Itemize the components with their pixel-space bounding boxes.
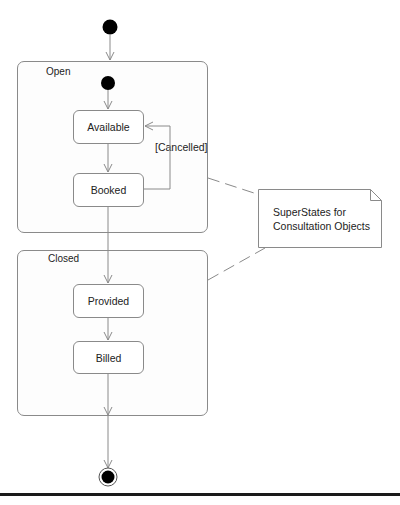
bottom-divider xyxy=(0,493,400,496)
state-booked: Booked xyxy=(73,173,144,207)
note-superstates: SuperStates for Consultation Objects xyxy=(258,189,382,248)
note-line-2: Consultation Objects xyxy=(273,219,370,233)
superstate-closed-label: Closed xyxy=(48,253,79,264)
note-connector-closed xyxy=(208,248,265,280)
final-state-inner-icon xyxy=(102,471,115,484)
state-provided-label: Provided xyxy=(88,295,129,307)
guard-cancelled-label: [Cancelled] xyxy=(155,141,208,153)
initial-state-icon xyxy=(103,20,118,35)
state-diagram: Open Closed Available Booked Provided Bi… xyxy=(0,0,400,505)
state-booked-label: Booked xyxy=(91,184,127,196)
superstate-open-label: Open xyxy=(46,66,70,77)
final-state-outer-icon xyxy=(99,468,117,486)
note-connector-open xyxy=(208,178,257,194)
state-billed-label: Billed xyxy=(96,352,122,364)
superstate-closed: Closed xyxy=(17,250,208,416)
state-available: Available xyxy=(73,110,144,144)
note-line-1: SuperStates for xyxy=(273,205,370,219)
note-text: SuperStates for Consultation Objects xyxy=(273,205,370,233)
state-available-label: Available xyxy=(87,121,129,133)
state-billed: Billed xyxy=(73,341,144,374)
state-provided: Provided xyxy=(73,284,144,318)
